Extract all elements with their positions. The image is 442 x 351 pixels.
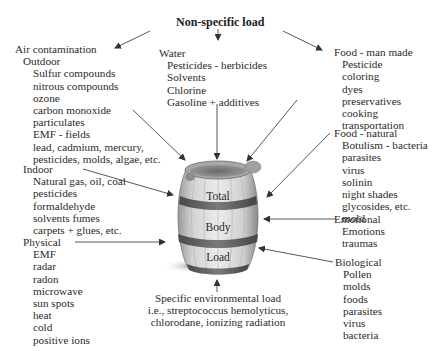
- arrow-foodnat-to-barrel: [267, 133, 330, 197]
- indoor-item: formaldehyde: [15, 200, 126, 212]
- outdoor-item: nitrous compounds: [15, 80, 161, 92]
- water-item: Pesticides - herbicides: [159, 59, 267, 71]
- specific-load-line: i.e., streptococcus hemolyticus,: [140, 304, 296, 316]
- outdoor-item: lead, cadmium, mercury,: [15, 141, 161, 153]
- water-heading: Water: [159, 47, 267, 59]
- biological-item: foods: [335, 293, 382, 305]
- physical-item: EMF: [15, 248, 90, 260]
- indoor-item: carpets + glues, etc.: [15, 224, 126, 236]
- physical-item: heat: [15, 309, 90, 321]
- outdoor-item: ozone: [15, 92, 161, 104]
- food-natural-item: Botulism - bacteria: [334, 139, 428, 151]
- food-natural-heading: Food - natural: [334, 127, 428, 139]
- biological-block: Biological Pollen molds foods parasites …: [335, 256, 382, 341]
- food-natural-block: Food - natural Botulism - bacteria paras…: [334, 127, 428, 225]
- food-natural-item: glycosides, etc.: [334, 200, 428, 212]
- food-man-made-item: cooking: [334, 107, 413, 119]
- barrel-label-load: Load: [196, 251, 240, 263]
- water-item: Chlorine: [159, 84, 267, 96]
- barrel-label-body: Body: [196, 221, 240, 233]
- biological-item: molds: [335, 280, 382, 292]
- outdoor-item: carbon monoxide: [15, 104, 161, 116]
- biological-item: parasites: [335, 305, 382, 317]
- indoor-block: Indoor Natural gas, oil, coal pesticides…: [15, 163, 126, 236]
- food-man-made-item: preservatives: [334, 95, 413, 107]
- food-man-made-heading: Food - man made: [334, 46, 413, 58]
- emotional-heading: Emotional: [334, 213, 385, 225]
- arrow-title-to-food: [283, 31, 322, 50]
- food-natural-item: virus: [334, 164, 428, 176]
- indoor-item: solvents fumes: [15, 212, 126, 224]
- outdoor-heading: Outdoor: [15, 55, 161, 67]
- arrow-foodmm-to-barrel: [247, 100, 297, 161]
- indoor-item: Natural gas, oil, coal: [15, 175, 126, 187]
- food-man-made-block: Food - man made Pesticide coloring dyes …: [334, 46, 413, 131]
- emotional-block: Emotional Emotions traumas: [334, 213, 385, 250]
- specific-load-block: Specific environmental load i.e., strept…: [140, 292, 296, 329]
- physical-item: sun spots: [15, 297, 90, 309]
- food-natural-item: solinin: [334, 176, 428, 188]
- biological-heading: Biological: [335, 256, 382, 268]
- food-natural-item: parasites: [334, 151, 428, 163]
- outdoor-item: EMF - fields: [15, 128, 161, 140]
- air-contamination-block: Air contamination Outdoor Sulfur compoun…: [15, 43, 161, 165]
- diagram-title: Non-specific load: [176, 15, 264, 30]
- physical-block: Physical EMF radar radon microwave sun s…: [15, 236, 90, 346]
- physical-heading: Physical: [15, 236, 90, 248]
- biological-item: virus: [335, 317, 382, 329]
- emotional-item: Emotions: [334, 225, 385, 237]
- indoor-item: pesticides: [15, 187, 126, 199]
- food-natural-item: night shades: [334, 188, 428, 200]
- outdoor-item: particulates: [15, 116, 161, 128]
- food-man-made-item: dyes: [334, 83, 413, 95]
- physical-item: positive ions: [15, 334, 90, 346]
- physical-item: microwave: [15, 285, 90, 297]
- food-man-made-item: coloring: [334, 70, 413, 82]
- specific-load-line: Specific environmental load: [140, 292, 296, 304]
- food-man-made-item: Pesticide: [334, 58, 413, 70]
- water-item: Solvents: [159, 71, 267, 83]
- biological-item: Pollen: [335, 268, 382, 280]
- emotional-item: traumas: [334, 237, 385, 249]
- biological-item: bacteria: [335, 329, 382, 341]
- specific-load-line: chlorodane, ionizing radiation: [140, 316, 296, 328]
- barrel-label-total: Total: [196, 190, 240, 202]
- arrow-biological-to-barrel: [259, 248, 333, 262]
- water-item: Gasoline + additives: [159, 96, 267, 108]
- water-block: Water Pesticides - herbicides Solvents C…: [159, 47, 267, 108]
- outdoor-item: Sulfur compounds: [15, 67, 161, 79]
- physical-item: radon: [15, 273, 90, 285]
- physical-item: cold: [15, 321, 90, 333]
- physical-item: radar: [15, 260, 90, 272]
- indoor-heading: Indoor: [15, 163, 126, 175]
- air-heading: Air contamination: [15, 43, 161, 55]
